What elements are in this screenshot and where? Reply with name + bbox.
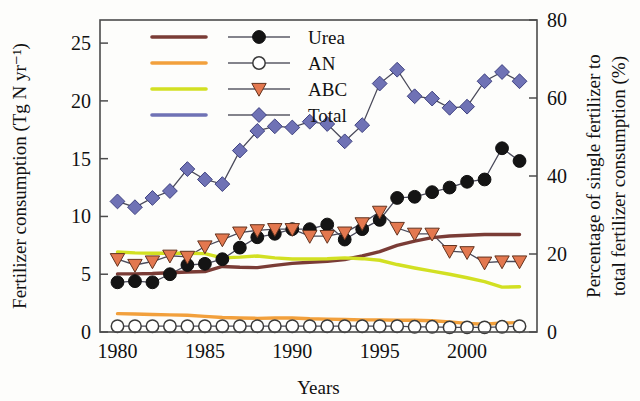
datapoint-urea-1985: [198, 257, 211, 270]
datapoint-an-1995: [373, 320, 385, 332]
series-connector-abc: [117, 212, 519, 265]
chart-legend: UreaANABCTotal: [152, 27, 347, 126]
legend-label-abc: ABC: [308, 79, 347, 100]
datapoint-total-1997: [407, 89, 422, 104]
datapoint-total-1996: [390, 62, 405, 77]
datapoint-abc-1980: [110, 254, 124, 267]
datapoint-urea-2002: [496, 142, 509, 155]
left-tick-label-15: 15: [71, 148, 91, 170]
datapoint-urea-1992: [321, 218, 334, 231]
datapoint-abc-1985: [198, 241, 212, 254]
fertilizer-consumption-chart: Fertilizer consumption (Tg N yr⁻¹)Percen…: [0, 0, 640, 401]
datapoint-an-1989: [269, 320, 281, 332]
datapoint-an-1996: [391, 320, 403, 332]
right-axis-ticks: 020406080: [529, 9, 567, 343]
legend-label-urea: Urea: [308, 27, 345, 48]
plot-series-markers: [110, 62, 527, 333]
datapoint-an-2002: [496, 321, 508, 333]
datapoint-urea-2001: [478, 173, 491, 186]
legend-label-total: Total: [308, 105, 347, 126]
figure-container: Fertilizer consumption (Tg N yr⁻¹)Percen…: [0, 0, 640, 401]
datapoint-an-1988: [251, 320, 263, 332]
right-axis-title-line2: total fertilizer consumption (%): [608, 56, 630, 296]
datapoint-an-1998: [426, 321, 438, 333]
datapoint-urea-1997: [408, 190, 421, 203]
right-tick-label-20: 20: [547, 243, 567, 265]
datapoint-total-2000: [460, 99, 475, 114]
datapoint-an-2003: [513, 320, 525, 332]
left-tick-label-10: 10: [71, 205, 91, 227]
right-tick-label-80: 80: [547, 9, 567, 31]
datapoint-an-1981: [129, 320, 141, 332]
legend-marker-urea: [253, 31, 266, 44]
legend-marker-abc: [252, 83, 266, 96]
datapoint-an-1985: [199, 320, 211, 332]
left-axis-ticks: 0510152025: [71, 32, 108, 343]
left-axis-title: Fertilizer consumption (Tg N yr⁻¹): [9, 43, 31, 309]
datapoint-urea-2000: [461, 175, 474, 188]
x-tick-label-1995: 1995: [360, 340, 400, 362]
datapoint-abc-1986: [215, 234, 229, 247]
datapoint-total-1998: [425, 91, 440, 106]
datapoint-an-1994: [356, 320, 368, 332]
legend-label-an: AN: [308, 53, 336, 74]
right-tick-label-60: 60: [547, 87, 567, 109]
datapoint-total-1999: [442, 100, 457, 115]
datapoint-total-1985: [197, 172, 212, 187]
series-connector-an: [117, 326, 519, 327]
x-axis-title: Years: [297, 377, 339, 398]
right-axis-title-line1: Percentage of single fertilizer to: [583, 54, 604, 298]
legend-marker-an: [253, 57, 265, 69]
datapoint-an-1980: [111, 320, 123, 332]
datapoint-abc-2001: [477, 257, 491, 270]
datapoint-total-2003: [512, 74, 527, 89]
datapoint-urea-1980: [111, 276, 124, 289]
left-tick-label-25: 25: [71, 32, 91, 54]
datapoint-urea-1981: [129, 275, 142, 288]
datapoint-total-1980: [110, 194, 125, 209]
datapoint-total-1984: [180, 162, 195, 177]
left-tick-label-20: 20: [71, 90, 91, 112]
legend-marker-total: [252, 108, 267, 123]
datapoint-urea-1996: [391, 192, 404, 205]
right-tick-label-0: 0: [547, 321, 557, 343]
datapoint-an-1992: [321, 320, 333, 332]
datapoint-total-1995: [372, 76, 387, 91]
datapoint-abc-1996: [390, 222, 404, 235]
datapoint-an-1997: [408, 321, 420, 333]
datapoint-an-1993: [339, 320, 351, 332]
datapoint-abc-1992: [320, 230, 334, 243]
datapoint-total-1982: [145, 191, 160, 206]
datapoint-abc-1991: [303, 230, 317, 243]
datapoint-total-1989: [267, 119, 282, 134]
datapoint-abc-1987: [233, 227, 247, 240]
datapoint-total-2002: [495, 65, 510, 80]
right-axis-title: Percentage of single fertilizer tototal …: [583, 54, 630, 298]
left-tick-label-5: 5: [81, 263, 91, 285]
datapoint-total-1981: [128, 200, 143, 215]
x-tick-label-1980: 1980: [97, 340, 137, 362]
datapoint-an-1984: [181, 320, 193, 332]
left-tick-label-0: 0: [81, 321, 91, 343]
datapoint-total-1986: [215, 177, 230, 192]
datapoint-an-1990: [286, 320, 298, 332]
datapoint-total-2001: [477, 74, 492, 89]
datapoint-an-1982: [146, 320, 158, 332]
datapoint-urea-1986: [216, 253, 229, 266]
datapoint-abc-2000: [460, 247, 474, 260]
datapoint-urea-1987: [233, 241, 246, 254]
datapoint-total-1990: [285, 120, 300, 135]
datapoint-an-1986: [216, 320, 228, 332]
datapoint-urea-1982: [146, 276, 159, 289]
right-tick-label-40: 40: [547, 165, 567, 187]
datapoint-total-1983: [163, 184, 178, 199]
datapoint-an-1987: [234, 320, 246, 332]
series-line-an-percentage: [117, 314, 519, 325]
datapoint-abc-1981: [128, 259, 142, 272]
datapoint-an-1991: [304, 320, 316, 332]
datapoint-urea-1983: [164, 268, 177, 281]
datapoint-an-1983: [164, 320, 176, 332]
datapoint-urea-1999: [443, 181, 456, 194]
datapoint-urea-1998: [426, 186, 439, 199]
datapoint-abc-2003: [512, 256, 526, 269]
